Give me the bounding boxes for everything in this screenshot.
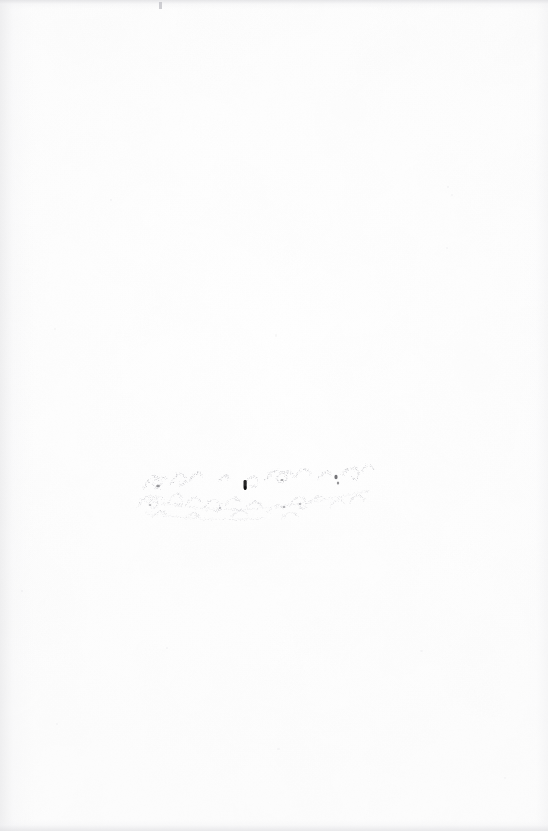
top-edge-speck xyxy=(159,2,162,9)
scanned-page xyxy=(0,0,548,831)
paper-background xyxy=(0,0,548,831)
scan-gutter-shadow-left xyxy=(0,0,34,831)
scan-edge-shadow-bottom xyxy=(0,819,548,831)
scan-edge-shadow-right xyxy=(522,0,548,831)
scan-edge-shadow-top xyxy=(0,0,548,9)
faded-handwritten-inscription xyxy=(132,455,382,527)
